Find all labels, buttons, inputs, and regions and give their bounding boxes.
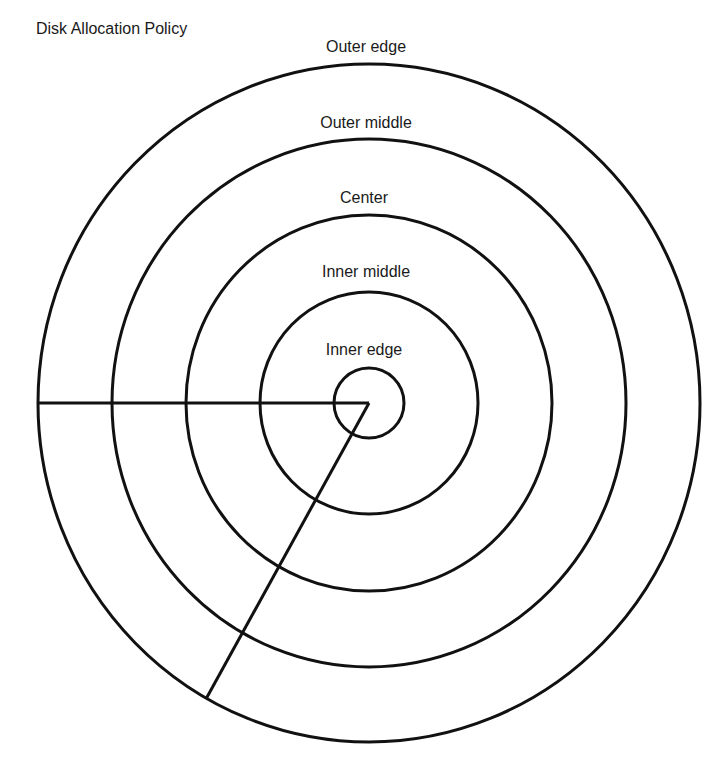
label-inner-edge: Inner edge xyxy=(326,341,403,359)
label-outer-middle: Outer middle xyxy=(320,114,412,132)
label-inner-middle: Inner middle xyxy=(322,263,410,281)
label-outer-edge: Outer edge xyxy=(326,38,406,56)
label-center: Center xyxy=(340,189,388,207)
